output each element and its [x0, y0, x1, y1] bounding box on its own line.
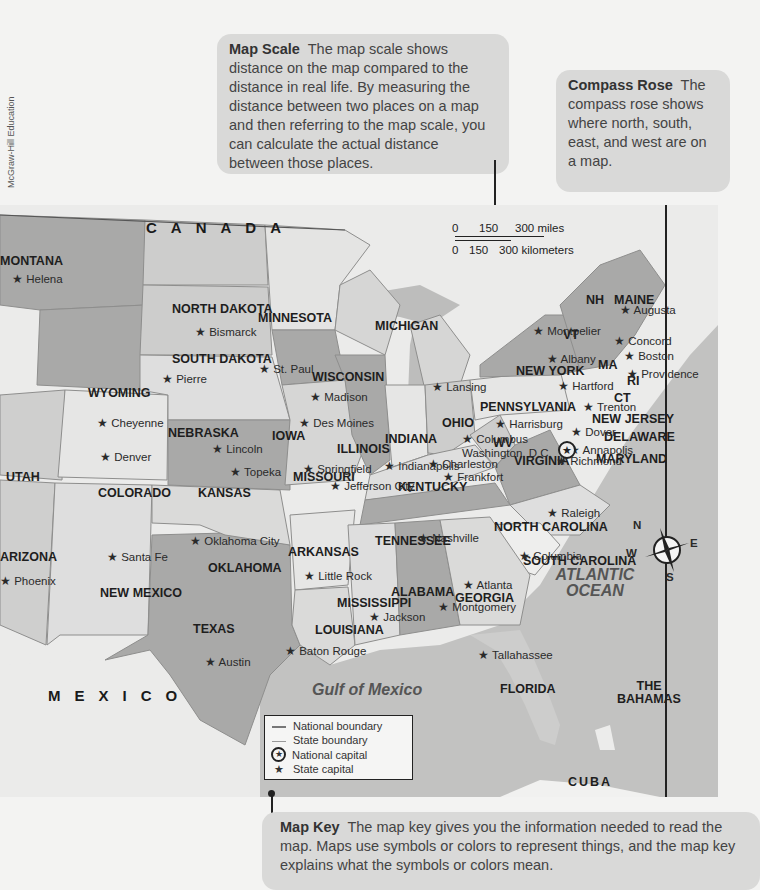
capital-name: Springfield [317, 463, 371, 475]
country-label-cuba: CUBA [568, 776, 612, 789]
us-map: CANADA MEXICO THE BAHAMAS CUBA ATLANTIC … [0, 205, 718, 797]
state-capital: ★ Dover [571, 426, 616, 438]
state-capital: ★ Tallahassee [478, 649, 553, 661]
state-capital: ★ Harrisburg [495, 418, 563, 430]
capital-name: Little Rock [318, 570, 372, 582]
water-label-atlantic: ATLANTIC OCEAN [540, 567, 650, 599]
state-label: MA [598, 359, 617, 372]
scale-km-0: 0 [452, 244, 458, 256]
legend-state-capital: ★State capital [271, 762, 406, 776]
state-capital: ★ Columbia [519, 550, 582, 562]
capital-name: Montpelier [547, 325, 601, 337]
capital-name: Columbia [533, 550, 582, 562]
state-capital-star-icon: ★ [162, 373, 176, 385]
state-capital-star-icon: ★ [462, 433, 476, 445]
national-boundary-line-icon [271, 719, 287, 733]
national-capital-icon: ★ [271, 747, 286, 762]
state-capital: ★ Phoenix [0, 575, 56, 587]
legend-state-boundary: State boundary [271, 733, 406, 747]
scale-miles-0: 0 [452, 222, 458, 234]
map-scale-callout: Map Scale The map scale shows distance o… [217, 34, 509, 174]
state-capital-star-icon: ★ [285, 645, 299, 657]
state-capital: ★ Bismarck [195, 326, 256, 338]
state-capital-star-icon: ★ [571, 426, 585, 438]
state-capital-star-icon: ★ [428, 458, 442, 470]
capital-name: Hartford [572, 380, 614, 392]
capital-name: Baton Rouge [299, 645, 366, 657]
state-label: ILLINOIS [337, 443, 390, 456]
state-label: TEXAS [193, 623, 235, 636]
state-capital-star-icon: ★ [432, 381, 446, 393]
capital-name: Providence [641, 368, 699, 380]
state-label: UTAH [6, 471, 40, 484]
capital-name: Richmond [570, 455, 622, 467]
state-label: ARIZONA [0, 551, 57, 564]
state-capital-star-icon: ★ [384, 460, 398, 472]
country-label-bahamas: THE BAHAMAS [614, 680, 684, 706]
capital-name: Cheyenne [111, 417, 163, 429]
state-capital: ★ Santa Fe [107, 551, 168, 563]
state-label: IOWA [272, 430, 305, 443]
country-label-canada: CANADA [146, 219, 295, 236]
state-label: KANSAS [198, 487, 251, 500]
state-capital-star-icon: ★ [330, 480, 344, 492]
state-capital-star-icon: ★ [547, 353, 561, 365]
national-capital-marker: ★ [558, 441, 576, 459]
capital-name: Raleigh [561, 507, 600, 519]
state-capital-star-icon: ★ [418, 532, 432, 544]
state-capital: ★ Hartford [558, 380, 614, 392]
water-label-gulf: Gulf of Mexico [312, 682, 422, 698]
capital-name: Augusta [634, 304, 676, 316]
state-label: MICHIGAN [375, 320, 438, 333]
state-capital: ★ Denver [100, 451, 151, 463]
state-capital-star-icon: ★ [0, 575, 14, 587]
publisher-credit: McGraw-Hill Education [6, 96, 16, 188]
map-scale-text: The map scale shows distance on the map … [229, 41, 485, 171]
state-capital: ★ Topeka [230, 466, 281, 478]
state-capital-star-icon: ★ [195, 326, 209, 338]
state-capital-star-icon: ★ [443, 471, 457, 483]
state-capital-star-icon: ★ [614, 335, 628, 347]
capital-name: Tallahassee [492, 649, 553, 661]
state-capital: ★ Madison [310, 391, 368, 403]
compass-e-label: E [690, 537, 698, 549]
capital-name: Helena [26, 273, 62, 285]
scale-km-300: 300 kilometers [499, 244, 574, 256]
scale-miles-150: 150 [479, 222, 498, 234]
state-capital: ★ Jefferson City [330, 480, 414, 492]
state-capital-star-icon: ★ [230, 466, 244, 478]
state-capital: ★ Lincoln [212, 443, 263, 455]
state-label: INDIANA [385, 433, 437, 446]
legend-national-boundary: National boundary [271, 719, 406, 733]
state-capital-star-icon: ★ [369, 611, 383, 623]
capital-name: Montgomery [452, 601, 516, 613]
capital-name: Austin [219, 656, 251, 668]
state-label: MINNESOTA [258, 312, 332, 325]
compass-s-label: S [666, 571, 674, 583]
capital-name: Oklahoma City [204, 535, 279, 547]
state-capital-star-icon: ★ [190, 535, 204, 547]
state-capital: ★ Frankfort [443, 471, 503, 483]
capital-name: Atlanta [477, 579, 513, 591]
state-capital: ★ Little Rock [304, 570, 372, 582]
scale-miles-300: 300 miles [515, 222, 564, 234]
capital-name: Madison [324, 391, 367, 403]
state-label: WISCONSIN [312, 371, 384, 384]
state-capital-star-icon: ★ [478, 649, 492, 661]
state-capital: ★ Albany [547, 353, 596, 365]
map-scale-leader [494, 160, 496, 210]
state-capital-star-icon: ★ [519, 550, 533, 562]
state-label: NEW JERSEY [592, 413, 674, 426]
state-capital: ★ Austin [205, 656, 251, 668]
state-capital-star-icon: ★ [100, 451, 114, 463]
state-capital: ★ Atlanta [463, 579, 512, 591]
capital-name: Jefferson City [344, 480, 414, 492]
compass-rose-callout: Compass Rose The compass rose shows wher… [556, 70, 730, 192]
capital-name: Pierre [176, 373, 207, 385]
state-capital: ★ Lansing [432, 381, 487, 393]
state-capital-star-icon: ★ [624, 350, 638, 362]
state-capital-star-icon: ★ [212, 443, 226, 455]
state-capital-star-icon: ★ [495, 418, 509, 430]
state-capital-star-icon: ★ [12, 273, 26, 285]
state-label: NEBRASKA [168, 427, 239, 440]
